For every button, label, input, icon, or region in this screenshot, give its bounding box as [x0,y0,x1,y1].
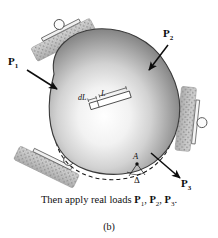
figure-panel-b: P1 P2 P3 dL L A Δ Then apply real loads … [0,0,218,238]
caption-sub-1: 1 [141,200,145,208]
figure-letter: (b) [0,221,218,232]
load-label-P1: P1 [8,56,18,70]
load-label-P3: P3 [181,178,191,192]
element-label-dL: dL [78,94,86,102]
roller-circle [196,117,207,128]
support-right [175,86,211,153]
caption-prefix: Then apply real loads [41,194,134,205]
element-label-L: L [101,90,105,98]
point-label-A: A [133,152,138,161]
figure-caption: Then apply real loads P1, P2, P3. [0,194,218,208]
load-label-P2: P2 [163,28,173,42]
caption-suffix: . [174,194,177,205]
displacement-label-delta: Δ [134,176,140,185]
load-arrow-P3 [151,153,180,178]
caption-sub-2: 2 [156,200,160,208]
